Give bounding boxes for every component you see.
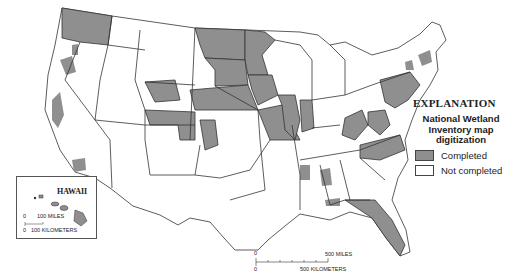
hawaii-inset: HAWAII 0 100 MILES 0 100 KILOMETERS	[16, 176, 97, 239]
hawaii-scale-km: 100 KILOMETERS	[31, 227, 77, 233]
legend-item-completed: Completed	[413, 150, 514, 161]
legend-item-not-completed: Not completed	[413, 165, 514, 176]
completed-swatch	[415, 150, 434, 161]
map-scale-bar	[256, 258, 328, 266]
state-nebraska	[190, 85, 258, 110]
hawaii-scale-miles: 100 MILES	[37, 213, 64, 219]
legend-label-completed: Completed	[441, 150, 487, 161]
scale-zero-km: 0	[254, 266, 257, 272]
not-completed-swatch	[415, 165, 434, 176]
scale-zero-miles: 0	[254, 250, 257, 256]
legend-subtitle-1: National Wetland	[413, 114, 509, 125]
hawaii-scale-zero-km: 0	[23, 227, 26, 233]
state-indiana	[300, 100, 314, 132]
scale-km-label: 500 KILOMETERS	[300, 266, 346, 272]
legend: EXPLANATION National Wetland Inventory m…	[413, 97, 514, 176]
scale-miles-label: 500 MILES	[325, 251, 352, 257]
state-washington	[62, 8, 112, 45]
legend-title: EXPLANATION	[413, 97, 514, 109]
hawaii-scale-zero: 0	[23, 213, 26, 219]
legend-subtitle-3: digitization	[413, 135, 509, 146]
legend-label-not-completed: Not completed	[441, 165, 502, 176]
